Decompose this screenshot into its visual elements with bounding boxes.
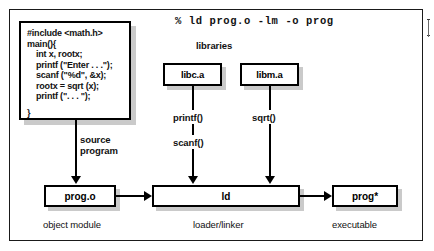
code-line: main(){ xyxy=(27,39,123,50)
link-command-text: % ld prog.o -lm -o prog xyxy=(175,15,334,27)
connector-linker-to-executable xyxy=(300,195,326,197)
edge-label-source-line2: program xyxy=(80,145,118,156)
arrowhead-linker-to-executable xyxy=(324,191,332,201)
code-line: scanf ("%d", &x); xyxy=(27,70,123,81)
diagram-canvas: #include <math.h> main(){ int x, rootx; … xyxy=(0,0,434,251)
arrowhead-libm-to-linker xyxy=(265,176,275,184)
code-line: #include <math.h> xyxy=(27,28,123,39)
edge-label-source-line1: source xyxy=(80,134,111,145)
code-line: printf (". . . "); xyxy=(27,91,123,102)
library-box-libm: libm.a xyxy=(240,63,299,86)
caption-object-module: object module xyxy=(43,219,101,230)
caption-loader-linker: loader/linker xyxy=(193,219,243,230)
source-code-box: #include <math.h> main(){ int x, rootx; … xyxy=(19,21,131,120)
code-line: } xyxy=(27,102,123,119)
connector-libc-seg2 xyxy=(192,124,194,135)
code-line: rootx = sqrt (x); xyxy=(27,81,123,92)
connector-source-to-object xyxy=(75,120,77,177)
arrowhead-libc-to-linker xyxy=(188,176,198,184)
object-module-box-label: prog.o xyxy=(64,191,95,202)
libraries-heading: libraries xyxy=(196,40,232,51)
edge-label-printf: printf() xyxy=(173,112,203,123)
linker-box: ld xyxy=(152,185,300,207)
edge-label-scanf: scanf() xyxy=(173,137,203,148)
page-edge-mark-icon xyxy=(427,19,430,36)
connector-libc-seg1 xyxy=(192,86,194,110)
caption-executable: executable xyxy=(332,219,377,230)
linker-box-label: ld xyxy=(222,191,231,202)
connector-object-to-linker xyxy=(116,195,146,197)
executable-box: prog* xyxy=(332,185,398,207)
code-line: printf ("Enter . . ."); xyxy=(27,60,123,71)
library-box-libc: libc.a xyxy=(163,63,222,86)
connector-libc-seg3 xyxy=(192,149,194,177)
connector-libm-seg2 xyxy=(269,124,271,177)
executable-box-label: prog* xyxy=(352,191,378,202)
arrowhead-object-to-linker xyxy=(144,191,152,201)
arrowhead-source-to-object xyxy=(71,176,81,184)
object-module-box: prog.o xyxy=(44,185,116,207)
code-line: int x, rootx; xyxy=(27,49,123,60)
library-box-libc-label: libc.a xyxy=(181,69,204,80)
edge-label-sqrt: sqrt() xyxy=(252,112,276,123)
library-box-libm-label: libm.a xyxy=(256,69,282,80)
connector-libm-seg1 xyxy=(269,86,271,110)
